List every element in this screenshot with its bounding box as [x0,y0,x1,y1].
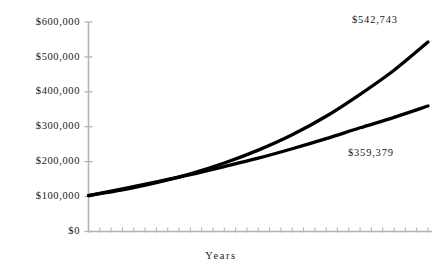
x-axis-label: Years [0,250,442,261]
axis-group [88,22,432,232]
series-end-label-lower: $359,379 [348,148,394,159]
series-group [89,42,429,196]
plot-area [0,0,442,273]
series-line-upper [89,42,429,196]
series-end-label-upper: $542,743 [352,15,398,26]
line-chart: $600,000 $500,000 $400,000 $300,000 $200… [0,0,442,273]
